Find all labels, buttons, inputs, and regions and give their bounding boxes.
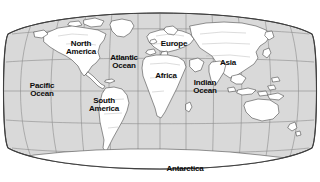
world-map: North America South America Europe Afric… — [0, 0, 320, 182]
map-canvas — [0, 0, 320, 182]
